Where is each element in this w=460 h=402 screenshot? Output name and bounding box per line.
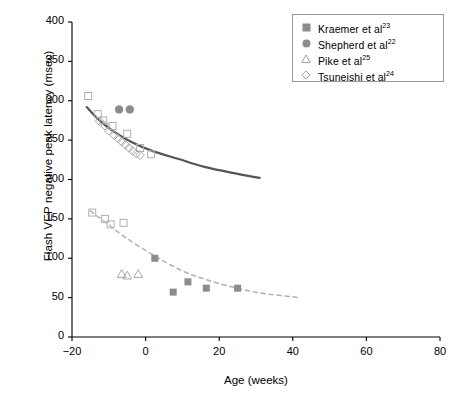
open-diamond-icon bbox=[299, 70, 313, 80]
x-tick-label: 0 bbox=[126, 345, 166, 357]
legend-item-label: Tsuneishi et al24 bbox=[318, 66, 394, 85]
y-tick-label: 200 bbox=[24, 172, 64, 184]
data-point bbox=[115, 105, 123, 113]
y-tick-label: 0 bbox=[24, 329, 64, 341]
legend-item[interactable]: Tsuneishi et al24 bbox=[299, 67, 443, 83]
trend-line-preterm-fit bbox=[87, 107, 260, 178]
legend-item[interactable]: Pike et al25 bbox=[299, 51, 443, 67]
legend-item[interactable]: Kraemer et al23 bbox=[299, 19, 443, 35]
x-axis-label: Age (weeks) bbox=[72, 374, 440, 386]
filled-square-icon bbox=[299, 23, 313, 32]
data-point bbox=[134, 270, 143, 278]
data-point bbox=[120, 219, 127, 226]
x-tick-label: 20 bbox=[199, 345, 239, 357]
data-point bbox=[203, 285, 210, 292]
data-point bbox=[136, 151, 145, 160]
x-tick-label: −20 bbox=[52, 345, 92, 357]
y-axis-ticks bbox=[68, 22, 72, 337]
data-point bbox=[184, 278, 191, 285]
data-point bbox=[85, 93, 92, 100]
x-tick-label: 40 bbox=[273, 345, 313, 357]
data-point bbox=[170, 289, 177, 296]
y-tick-label: 50 bbox=[24, 290, 64, 302]
x-tick-label: 60 bbox=[346, 345, 386, 357]
trend-line-term-fit bbox=[90, 211, 300, 298]
x-axis-ticks bbox=[72, 337, 440, 341]
data-points bbox=[85, 93, 241, 296]
data-point bbox=[151, 255, 158, 262]
data-point bbox=[124, 130, 131, 137]
y-tick-label: 400 bbox=[24, 14, 64, 26]
x-tick-label: 80 bbox=[420, 345, 460, 357]
legend-item[interactable]: Shepherd et al22 bbox=[299, 35, 443, 51]
y-tick-label: 300 bbox=[24, 93, 64, 105]
y-tick-label: 150 bbox=[24, 211, 64, 223]
data-point bbox=[126, 105, 134, 113]
filled-circle-icon bbox=[299, 39, 313, 48]
y-tick-label: 350 bbox=[24, 53, 64, 65]
y-tick-label: 250 bbox=[24, 132, 64, 144]
chart-legend: Kraemer et al23 Shepherd et al22 Pike et… bbox=[292, 14, 444, 82]
y-tick-label: 100 bbox=[24, 250, 64, 262]
open-triangle-icon bbox=[299, 54, 313, 64]
data-point bbox=[234, 285, 241, 292]
